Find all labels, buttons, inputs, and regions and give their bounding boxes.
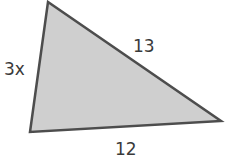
triangle-shape [30,2,221,132]
hypotenuse-label: 13 [133,36,155,56]
bottom-side-label: 12 [115,139,137,159]
triangle-diagram: 3x 13 12 [0,0,225,161]
left-side-label: 3x [4,59,25,79]
